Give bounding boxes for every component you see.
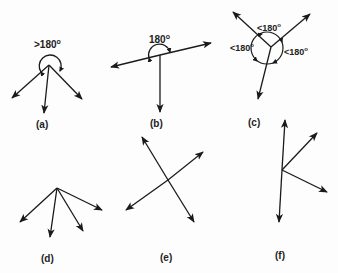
angle-label-c-left: <180o [230,42,254,53]
vector-e-upright [168,152,203,180]
vector-b-right [160,43,211,55]
panel-label-e: (e) [160,252,172,263]
angle-label-c-top: <180o [257,22,281,33]
vector-f-up [282,120,285,170]
panel-f [279,120,327,222]
vector-a2 [44,65,49,113]
vector-d2 [50,188,57,237]
panel-label-d: (d) [41,253,54,264]
vector-a3 [49,65,82,99]
vector-a1 [12,65,49,98]
panel-label-c: (c) [248,117,260,128]
vector-configuration-diagram: >180o (a) 180o (b) <180o <180o <180o (c) [0,0,338,273]
panel-label-b: (b) [150,118,163,129]
angle-arc-b [149,44,170,58]
vector-d1 [20,188,57,222]
vector-e-downleft [126,180,168,210]
angle-label-c-right: <180o [284,46,308,57]
panel-e [126,137,203,222]
panel-a [12,55,82,113]
vector-f-right [282,170,327,192]
vector-e-downright [168,180,194,222]
angle-arc-a [39,55,61,72]
angle-label-a: >180o [34,38,61,50]
vector-e-upleft [142,137,168,180]
vector-c-down [258,47,271,99]
vector-b-left [111,55,160,67]
panel-d [20,188,102,237]
panel-b [111,43,211,112]
vector-f-down [279,170,282,222]
angle-label-b: 180o [149,33,170,45]
vector-f-upright [282,133,317,170]
panel-label-f: (f) [275,250,285,261]
panel-label-a: (a) [36,119,48,130]
